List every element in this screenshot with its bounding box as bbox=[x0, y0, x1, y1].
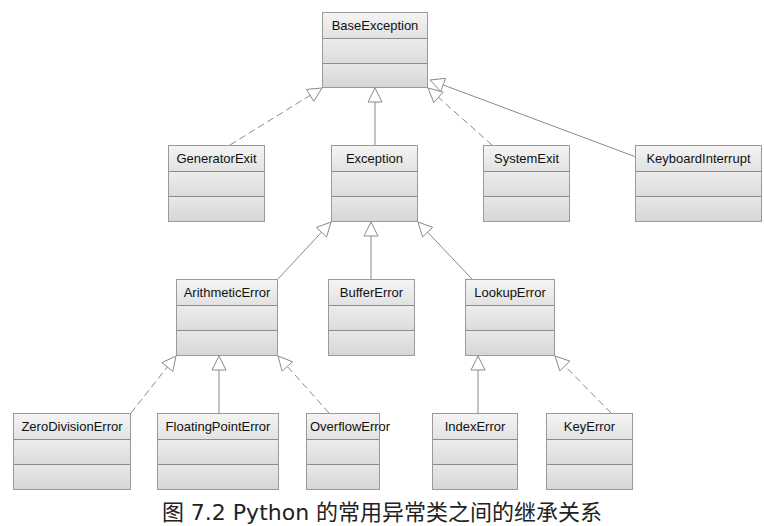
class-attributes-compartment bbox=[329, 306, 414, 331]
hollow-triangle-arrow-icon bbox=[364, 222, 378, 236]
class-attributes-compartment bbox=[433, 440, 517, 465]
inheritance-edge-keyerror-to-lookuperror bbox=[555, 356, 611, 413]
inheritance-edge-floatingpointerror-to-arithmeticerror bbox=[212, 356, 226, 413]
inheritance-edge-indexerror-to-lookuperror bbox=[471, 356, 485, 413]
class-name: Exception bbox=[332, 146, 417, 172]
class-methods-compartment bbox=[433, 465, 517, 489]
class-methods-compartment bbox=[323, 64, 427, 88]
class-box-generator-exit: GeneratorExit bbox=[168, 145, 265, 222]
inheritance-edge-generatorexit-to-baseexception bbox=[230, 88, 322, 145]
class-attributes-compartment bbox=[14, 440, 130, 465]
class-methods-compartment bbox=[14, 465, 130, 489]
class-attributes-compartment bbox=[332, 172, 417, 197]
class-box-system-exit: SystemExit bbox=[483, 145, 570, 222]
class-name: ArithmeticError bbox=[177, 280, 277, 306]
inheritance-edge-overflowerror-to-arithmeticerror bbox=[278, 356, 329, 413]
class-name: ZeroDivisionError bbox=[14, 414, 130, 440]
class-methods-compartment bbox=[177, 331, 277, 355]
class-name: SystemExit bbox=[484, 146, 569, 172]
class-methods-compartment bbox=[307, 465, 379, 489]
class-box-lookup-error: LookupError bbox=[465, 279, 555, 356]
class-name: BaseException bbox=[323, 13, 427, 39]
class-box-keyboard-interrupt: KeyboardInterrupt bbox=[635, 145, 762, 222]
class-box-buffer-error: BufferError bbox=[328, 279, 415, 356]
inheritance-edge-exception-to-baseexception bbox=[368, 88, 382, 145]
hollow-triangle-arrow-icon bbox=[471, 356, 485, 370]
class-attributes-compartment bbox=[169, 172, 264, 197]
hollow-triangle-arrow-icon bbox=[555, 356, 570, 371]
class-name: OverflowError bbox=[307, 414, 379, 440]
class-name: IndexError bbox=[433, 414, 517, 440]
inheritance-edge-zerodivisionerror-to-arithmeticerror bbox=[131, 356, 176, 413]
hollow-triangle-arrow-icon bbox=[368, 88, 382, 102]
class-box-key-error: KeyError bbox=[546, 413, 633, 490]
class-name: GeneratorExit bbox=[169, 146, 264, 172]
class-attributes-compartment bbox=[177, 306, 277, 331]
class-box-arithmetic-error: ArithmeticError bbox=[176, 279, 278, 356]
class-methods-compartment bbox=[158, 465, 278, 489]
class-methods-compartment bbox=[636, 197, 761, 221]
class-methods-compartment bbox=[332, 197, 417, 221]
inheritance-edge-lookuperror-to-exception bbox=[418, 222, 472, 279]
class-name: KeyError bbox=[547, 414, 632, 440]
hollow-triangle-arrow-icon bbox=[306, 88, 322, 101]
class-box-floating-point-error: FloatingPointError bbox=[157, 413, 279, 490]
hollow-triangle-arrow-icon bbox=[278, 356, 293, 371]
figure-caption: 图 7.2 Python 的常用异常类之间的继承关系 bbox=[0, 494, 764, 526]
class-methods-compartment bbox=[547, 465, 632, 489]
class-box-base-exception: BaseException bbox=[322, 12, 428, 88]
class-name: KeyboardInterrupt bbox=[636, 146, 761, 172]
class-methods-compartment bbox=[466, 331, 554, 355]
class-attributes-compartment bbox=[484, 172, 569, 197]
class-attributes-compartment bbox=[307, 440, 379, 465]
hollow-triangle-arrow-icon bbox=[212, 356, 226, 370]
class-attributes-compartment bbox=[547, 440, 632, 465]
class-methods-compartment bbox=[484, 197, 569, 221]
class-attributes-compartment bbox=[466, 306, 554, 331]
class-methods-compartment bbox=[329, 331, 414, 355]
class-name: BufferError bbox=[329, 280, 414, 306]
inheritance-edge-buffererror-to-exception bbox=[364, 222, 378, 279]
class-box-zero-division-error: ZeroDivisionError bbox=[13, 413, 131, 490]
class-name: LookupError bbox=[466, 280, 554, 306]
class-attributes-compartment bbox=[636, 172, 761, 197]
class-attributes-compartment bbox=[323, 39, 427, 64]
class-box-index-error: IndexError bbox=[432, 413, 518, 490]
class-box-exception: Exception bbox=[331, 145, 418, 222]
inheritance-edge-arithmeticerror-to-exception bbox=[278, 222, 331, 279]
class-name: FloatingPointError bbox=[158, 414, 278, 440]
inheritance-edge-systemexit-to-baseexception bbox=[428, 88, 492, 145]
class-methods-compartment bbox=[169, 197, 264, 221]
class-attributes-compartment bbox=[158, 440, 278, 465]
class-box-overflow-error: OverflowError bbox=[306, 413, 380, 490]
hollow-triangle-arrow-icon bbox=[162, 356, 176, 371]
